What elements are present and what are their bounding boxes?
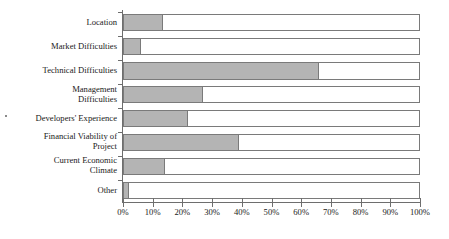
bar-fill-management-difficulties [123,86,203,103]
bar-row-current-economic-climate [123,158,420,175]
bar-fill-developers-experience [123,110,188,127]
x-axis-tick-inner [420,198,421,202]
bar-fill-current-economic-climate [123,158,165,175]
y-axis-tick [118,12,123,13]
category-label-developers-experience: Developers' Experience [36,113,117,123]
category-label-other: Other [97,185,117,195]
bar-fill-financial-viability [123,134,239,151]
bar-row-developers-experience [123,110,420,127]
bar-row-location [123,14,420,31]
bar-track [123,182,420,199]
x-axis-tick-label: 100% [410,207,430,218]
x-axis-tick-inner [301,198,302,202]
chart-container: Location Market Difficulties Technical D… [0,0,449,239]
x-axis-tick-inner [272,198,273,202]
y-axis-tick [118,132,123,133]
y-axis-tick [118,156,123,157]
bar-row-financial-viability [123,134,420,151]
y-axis-tick [118,36,123,37]
y-axis-tick [118,180,123,181]
x-axis-tick-inner [361,198,362,202]
x-axis-tick-label: 70% [323,207,339,218]
x-axis-tick-inner [390,198,391,202]
x-axis-tick-inner [153,198,154,202]
bar-row-management-difficulties [123,86,420,103]
x-axis-tick-label: 0% [117,207,128,218]
bar-fill-market-difficulties [123,38,141,55]
bar-row-technical-difficulties [123,62,420,80]
category-label-location: Location [86,17,117,27]
bar-track [123,14,420,31]
x-axis-tick-label: 90% [382,207,398,218]
category-label-market-difficulties: Market Difficulties [51,41,117,51]
x-axis-tick-inner [123,198,124,202]
x-axis-tick-inner [182,198,183,202]
y-axis-tick [118,84,123,85]
plot-area: Location Market Difficulties Technical D… [0,0,449,239]
bar-fill-technical-difficulties [123,62,319,80]
bar-fill-location [123,14,163,31]
bar-fill-other [123,182,129,199]
x-axis-tick-label: 40% [234,207,250,218]
x-axis-tick-label: 10% [145,207,161,218]
bar-track [123,38,420,55]
bar-track [123,158,420,175]
category-label-management-difficulties: Management Difficulties [72,84,117,104]
category-label-technical-difficulties: Technical Difficulties [43,65,117,75]
x-axis-tick-label: 60% [293,207,309,218]
x-axis-tick-label: 30% [204,207,220,218]
bar-row-market-difficulties [123,38,420,55]
x-axis-tick-inner [212,198,213,202]
x-axis-tick-label: 80% [353,207,369,218]
x-axis-tick-label: 50% [264,207,280,218]
category-label-current-economic-climate: Current Economic Climate [54,155,117,175]
category-label-financial-viability: Financial Viability of Project [44,131,117,151]
bar-row-other [123,182,420,199]
x-axis-tick-inner [331,198,332,202]
y-axis-tick [118,108,123,109]
y-axis-tick [118,60,123,61]
x-axis-tick-label: 20% [175,207,191,218]
x-axis-tick-inner [242,198,243,202]
